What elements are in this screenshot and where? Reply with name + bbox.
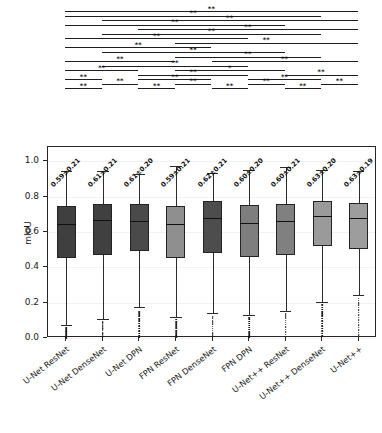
significance-star: ** bbox=[263, 78, 270, 85]
outlier-point bbox=[321, 320, 323, 322]
significance-star: ** bbox=[208, 28, 215, 35]
outlier-point bbox=[321, 318, 323, 320]
y-tick-mark bbox=[43, 337, 47, 338]
box-iqr bbox=[240, 205, 259, 257]
y-tick-mark bbox=[43, 302, 47, 303]
significance-star: ** bbox=[244, 51, 251, 58]
significance-star: ** bbox=[336, 78, 343, 85]
y-tick-mark bbox=[43, 266, 47, 267]
outlier-point bbox=[285, 331, 287, 333]
significance-star: ** bbox=[317, 69, 324, 76]
gridline bbox=[48, 197, 375, 198]
plot-area: 0.59±0.210.61±0.210.61±0.200.59±0.210.62… bbox=[47, 146, 376, 337]
significance-star: ** bbox=[244, 24, 251, 31]
significance-star: * bbox=[228, 65, 232, 72]
whisker-lower bbox=[103, 255, 104, 320]
outlier-point bbox=[358, 332, 360, 334]
outlier-point bbox=[358, 300, 360, 302]
outlier-point bbox=[285, 324, 287, 326]
outlier-point bbox=[321, 315, 323, 317]
y-tick-label: 0.2 bbox=[5, 297, 39, 307]
outlier-point bbox=[358, 327, 360, 329]
outlier-point bbox=[358, 317, 360, 319]
outlier-point bbox=[321, 325, 323, 327]
whisker-lower bbox=[139, 251, 140, 307]
box-iqr bbox=[276, 204, 295, 255]
whisker-lower bbox=[286, 255, 287, 311]
outlier-point bbox=[358, 307, 360, 309]
significance-star: ** bbox=[190, 69, 197, 76]
y-tick-label: 0.6 bbox=[5, 226, 39, 236]
gridline bbox=[48, 267, 375, 268]
outlier-point bbox=[139, 320, 141, 322]
whisker-cap-lower bbox=[170, 317, 181, 318]
significance-star: ** bbox=[116, 78, 123, 85]
outlier-point bbox=[139, 323, 141, 325]
x-tick-mark bbox=[102, 337, 103, 341]
significance-star: ** bbox=[153, 83, 160, 90]
significance-star: ** bbox=[208, 6, 215, 13]
gridline bbox=[48, 303, 375, 304]
outlier-point bbox=[358, 314, 360, 316]
outlier-point bbox=[358, 319, 360, 321]
median-line bbox=[240, 223, 259, 224]
x-tick-mark bbox=[321, 337, 322, 341]
significance-star: ** bbox=[281, 74, 288, 81]
box-iqr bbox=[57, 206, 76, 257]
y-tick-mark bbox=[43, 160, 47, 161]
y-tick-label: 0.8 bbox=[5, 191, 39, 201]
outlier-point bbox=[139, 330, 141, 332]
whisker-cap-lower bbox=[207, 313, 218, 314]
significance-star: ** bbox=[116, 56, 123, 63]
whisker-lower bbox=[66, 258, 67, 325]
whisker-upper bbox=[139, 174, 140, 205]
significance-star: ** bbox=[171, 60, 178, 67]
outlier-point bbox=[321, 323, 323, 325]
outlier-point bbox=[139, 315, 141, 317]
significance-star: ** bbox=[226, 15, 233, 22]
outlier-point bbox=[139, 325, 141, 327]
y-tick-mark bbox=[43, 231, 47, 232]
outlier-point bbox=[358, 334, 360, 336]
outlier-point bbox=[358, 312, 360, 314]
boxplot-figure: ****************************************… bbox=[0, 0, 382, 433]
significance-star: ** bbox=[226, 83, 233, 90]
whisker-cap-lower bbox=[61, 325, 72, 326]
significance-star: ** bbox=[171, 19, 178, 26]
y-tick-label: 0.0 bbox=[5, 332, 39, 342]
box-iqr bbox=[93, 204, 112, 254]
x-tick-mark bbox=[138, 337, 139, 341]
outlier-point bbox=[139, 328, 141, 330]
outlier-point bbox=[285, 329, 287, 331]
x-tick-mark bbox=[65, 337, 66, 341]
significance-star: ** bbox=[190, 47, 197, 54]
median-line bbox=[349, 218, 368, 219]
x-tick-mark bbox=[285, 337, 286, 341]
box-iqr bbox=[130, 204, 149, 251]
outlier-point bbox=[285, 326, 287, 328]
outlier-point bbox=[358, 304, 360, 306]
significance-star: ** bbox=[153, 33, 160, 40]
median-line bbox=[93, 220, 112, 221]
significance-star: ** bbox=[80, 83, 87, 90]
significance-star: ** bbox=[135, 42, 142, 49]
median-line bbox=[130, 221, 149, 222]
significance-star: ** bbox=[190, 10, 197, 17]
x-tick-mark bbox=[358, 337, 359, 341]
significance-star: ** bbox=[281, 56, 288, 63]
median-line bbox=[313, 216, 332, 217]
box-iqr bbox=[349, 203, 368, 248]
outlier-point bbox=[321, 328, 323, 330]
y-tick-label: 1.0 bbox=[5, 155, 39, 165]
outlier-point bbox=[321, 333, 323, 335]
whisker-cap-lower bbox=[280, 311, 291, 312]
whisker-cap-lower bbox=[353, 295, 364, 296]
outlier-point bbox=[358, 329, 360, 331]
x-tick-mark bbox=[212, 337, 213, 341]
x-tick-mark bbox=[175, 337, 176, 341]
significance-star: ** bbox=[98, 65, 105, 72]
whisker-cap-lower bbox=[134, 307, 145, 308]
whisker-cap-lower bbox=[316, 302, 327, 303]
median-line bbox=[57, 224, 76, 225]
outlier-point bbox=[358, 324, 360, 326]
